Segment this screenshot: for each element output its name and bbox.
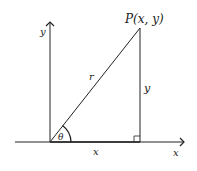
angle-arc: [63, 126, 72, 143]
x-axis-label: x: [173, 147, 179, 158]
angle-label: θ: [58, 132, 64, 142]
diagram: P(x, y) y x r y x θ: [0, 0, 197, 171]
y-axis-label: y: [39, 26, 46, 37]
hypotenuse: [50, 28, 140, 142]
adjacent-label: x: [93, 146, 99, 157]
hypotenuse-label: r: [89, 71, 95, 82]
opposite-label: y: [143, 82, 151, 95]
right-angle-marker: [134, 136, 140, 142]
point-label: P(x, y): [124, 12, 164, 26]
